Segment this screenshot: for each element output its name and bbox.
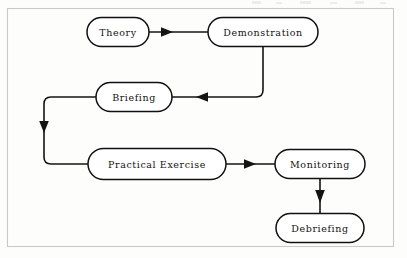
arrow-head-down-icon — [39, 121, 49, 133]
node-label-theory: Theory — [99, 27, 136, 38]
edge-demonstration-to-briefing — [172, 47, 263, 102]
edge-monitoring-to-debriefing — [315, 179, 325, 213]
diagram-frame — [8, 9, 394, 247]
arrow-head-right-icon — [161, 27, 173, 37]
arrow-head-down-icon — [315, 190, 325, 203]
flowchart-canvas: Theory Demonstration Briefing Practical … — [0, 0, 407, 258]
node-label-demonstration: Demonstration — [223, 27, 302, 38]
edge-theory-to-demonstration — [149, 27, 208, 37]
node-theory[interactable]: Theory — [87, 18, 149, 47]
node-monitoring[interactable]: Monitoring — [275, 150, 365, 179]
scan-artifact — [330, 2, 337, 4]
node-label-briefing: Briefing — [112, 92, 156, 103]
node-label-practical-exercise: Practical Exercise — [108, 159, 206, 170]
flowchart-svg: Theory Demonstration Briefing Practical … — [0, 0, 407, 258]
node-practical-exercise[interactable]: Practical Exercise — [88, 149, 226, 180]
arrow-head-right-icon — [244, 159, 256, 169]
edge-line — [172, 47, 263, 97]
edge-briefing-to-practical-exercise — [39, 97, 96, 164]
scan-artifact — [355, 1, 364, 4]
scan-artifact — [300, 1, 311, 4]
edge-line — [44, 97, 96, 164]
edge-practical-exercise-to-monitoring — [226, 159, 275, 169]
node-label-monitoring: Monitoring — [290, 159, 350, 170]
scan-artifact-group — [252, 1, 386, 4]
scan-artifact — [276, 2, 282, 4]
arrow-head-left-icon — [196, 92, 208, 102]
scan-artifact — [380, 2, 386, 4]
node-briefing[interactable]: Briefing — [96, 83, 172, 112]
node-debriefing[interactable]: Debriefing — [276, 214, 364, 243]
node-label-debriefing: Debriefing — [291, 223, 348, 234]
scan-artifact — [252, 1, 261, 4]
node-demonstration[interactable]: Demonstration — [208, 18, 318, 47]
